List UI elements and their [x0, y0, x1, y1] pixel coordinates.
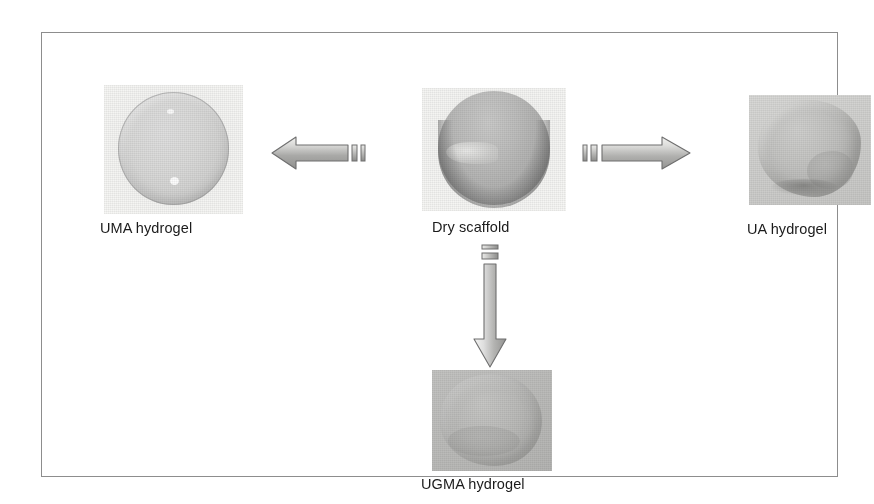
- arrow-down-to-ugma-hydrogel: [466, 243, 514, 371]
- uma-hydrogel-photo: [104, 85, 243, 214]
- ugma-hydrogel-fold: [448, 426, 520, 456]
- arrow-down-tick-2: [482, 253, 498, 259]
- uma-hydrogel-highlight-bottom: [170, 177, 179, 185]
- arrow-right-tick-2: [591, 145, 597, 161]
- figure-root: UMA hydrogel Dry scaffold UA hydrogel UG…: [0, 0, 874, 504]
- arrow-down-body: [474, 264, 506, 367]
- uma-hydrogel-highlight-top: [167, 109, 174, 114]
- ugma-hydrogel-caption: UGMA hydrogel: [421, 476, 525, 492]
- arrow-down-tick-1: [482, 245, 498, 249]
- arrow-left-tick-2: [361, 145, 365, 161]
- dry-scaffold-shadow-crescent: [438, 120, 550, 208]
- arrow-right-body: [602, 137, 690, 169]
- uma-hydrogel-rim: [118, 92, 229, 205]
- arrow-right-to-ua-hydrogel: [580, 131, 694, 175]
- arrow-left-body: [272, 137, 348, 169]
- ua-hydrogel-photo: [749, 95, 871, 205]
- ugma-hydrogel-photo: [432, 370, 552, 471]
- dry-scaffold-caption: Dry scaffold: [432, 219, 510, 235]
- arrow-right-tick-1: [583, 145, 587, 161]
- figure-border-frame: UMA hydrogel Dry scaffold UA hydrogel UG…: [41, 32, 838, 477]
- uma-hydrogel-caption: UMA hydrogel: [100, 220, 192, 236]
- ua-hydrogel-caption: UA hydrogel: [747, 221, 827, 237]
- arrow-left-to-uma-hydrogel: [270, 131, 382, 175]
- dry-scaffold-photo: [422, 88, 566, 211]
- arrow-left-tick-1: [352, 145, 357, 161]
- ua-hydrogel-edge-shadow: [771, 179, 837, 195]
